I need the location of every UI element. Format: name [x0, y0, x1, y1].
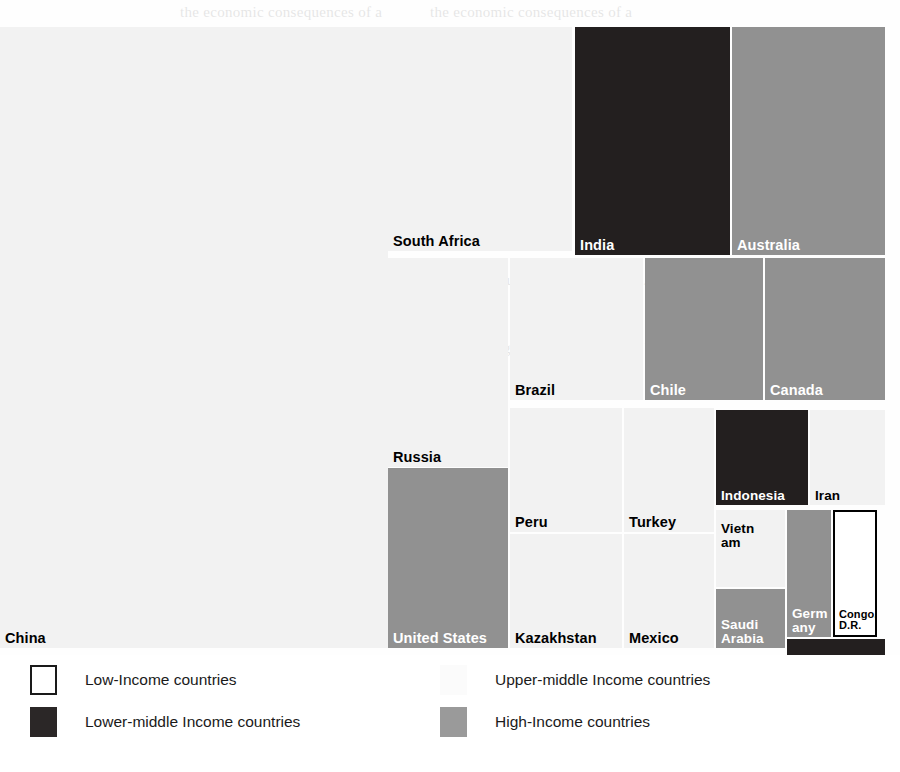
treemap-label-united-states: United States	[393, 631, 487, 646]
legend-swatch-low-income	[30, 665, 57, 695]
treemap-cell-brazil[interactable]: Brazil	[510, 258, 643, 400]
legend-swatch-high-income	[440, 707, 467, 737]
treemap-cell-congo-dr[interactable]: Congo, D.R.	[833, 510, 877, 637]
treemap-label-congo-dr: Congo, D.R.	[839, 609, 877, 632]
treemap-label-peru: Peru	[515, 515, 548, 530]
treemap-label-germany: Germ any	[792, 607, 828, 635]
chart-legend: Low-Income countries Lower-middle Income…	[0, 655, 900, 772]
treemap-label-canada: Canada	[770, 383, 823, 398]
treemap-cell-mexico[interactable]: Mexico	[624, 534, 714, 648]
legend-swatch-lower-middle-income	[30, 707, 57, 737]
legend-label-high-income: High-Income countries	[495, 713, 650, 731]
treemap-cell-peru[interactable]: Peru	[510, 408, 622, 532]
legend-item-low-income[interactable]: Low-Income countries	[30, 665, 237, 695]
treemap-label-india: India	[580, 238, 614, 253]
legend-item-lower-middle-income[interactable]: Lower-middle Income countries	[30, 707, 300, 737]
treemap-label-iran: Iran	[815, 489, 840, 503]
treemap-cell-south-africa[interactable]: South Africa	[388, 27, 572, 251]
treemap-cell-turkey[interactable]: Turkey	[624, 408, 714, 532]
treemap-label-china: China	[5, 631, 46, 646]
treemap-label-south-africa: South Africa	[393, 234, 480, 249]
legend-item-upper-middle-income[interactable]: Upper-middle Income countries	[440, 665, 710, 695]
treemap-label-saudi-arabia: Saudi Arabia	[721, 618, 764, 646]
treemap-label-mexico: Mexico	[629, 631, 679, 646]
treemap-cell-russia[interactable]: Russia	[388, 258, 508, 467]
treemap-cell-china[interactable]: China	[0, 27, 388, 648]
treemap-cell-australia[interactable]: Australia	[732, 27, 885, 255]
treemap-label-kazakhstan: Kazakhstan	[515, 631, 597, 646]
legend-item-high-income[interactable]: High-Income countries	[440, 707, 650, 737]
treemap-label-russia: Russia	[393, 450, 441, 465]
treemap-cell-vietnam[interactable]: Vietn am	[716, 510, 785, 587]
treemap-cell-canada[interactable]: Canada	[765, 258, 885, 400]
treemap-chart: China South Africa India Australia Russi…	[388, 27, 885, 648]
treemap-cell-saudi-arabia[interactable]: Saudi Arabia	[716, 589, 785, 648]
legend-label-upper-middle-income: Upper-middle Income countries	[495, 671, 710, 689]
treemap-label-brazil: Brazil	[515, 383, 555, 398]
treemap-label-chile: Chile	[650, 383, 686, 398]
legend-label-lower-middle-income: Lower-middle Income countries	[85, 713, 300, 731]
treemap-cell-iran[interactable]: Iran	[810, 410, 885, 505]
treemap-cell-kazakhstan[interactable]: Kazakhstan	[510, 534, 622, 648]
treemap-cell-indonesia[interactable]: Indonesia	[716, 410, 808, 505]
treemap-cell-united-states[interactable]: United States	[388, 468, 508, 648]
treemap-label-turkey: Turkey	[629, 515, 676, 530]
treemap-label-vietnam: Vietn am	[721, 522, 754, 550]
treemap-cell-chile[interactable]: Chile	[645, 258, 763, 400]
treemap-label-australia: Australia	[737, 238, 800, 253]
treemap-cell-india[interactable]: India	[575, 27, 730, 255]
legend-label-low-income: Low-Income countries	[85, 671, 237, 689]
legend-swatch-upper-middle-income	[440, 665, 467, 695]
treemap-label-indonesia: Indonesia	[721, 489, 785, 503]
treemap-cell-germany[interactable]: Germ any	[787, 510, 831, 637]
